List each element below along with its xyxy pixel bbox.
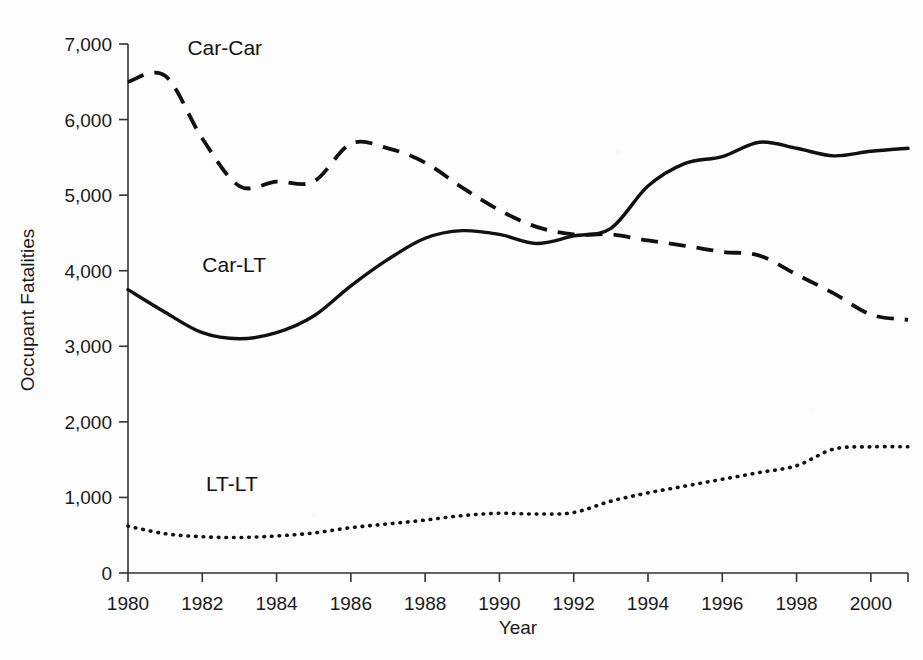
series-line-car-lt (128, 142, 908, 339)
y-tick-label: 1,000 (64, 487, 112, 508)
y-tick-label: 3,000 (64, 336, 112, 357)
x-tick-label: 1986 (330, 593, 372, 614)
chart-svg: 01,0002,0003,0004,0005,0006,0007,000 198… (0, 0, 923, 660)
x-tick-label: 1996 (701, 593, 743, 614)
series-label-car-lt: Car-LT (202, 253, 266, 276)
series-inline-labels: Car-CarCar-LTLT-LT (187, 36, 266, 494)
y-tick-label: 0 (101, 563, 112, 584)
x-tick-label: 1984 (255, 593, 298, 614)
series-line-car-car (128, 73, 908, 320)
x-axis-ticks: 1980198219841986198819901992199419961998… (107, 573, 908, 614)
x-axis-title: Year (499, 617, 538, 638)
data-series-group (128, 73, 908, 538)
y-axis-ticks: 01,0002,0003,0004,0005,0006,0007,000 (64, 34, 128, 584)
x-tick-label: 1988 (404, 593, 446, 614)
y-tick-label: 5,000 (64, 185, 112, 206)
x-tick-label: 1994 (627, 593, 670, 614)
occupant-fatalities-chart: 01,0002,0003,0004,0005,0006,0007,000 198… (0, 0, 923, 660)
y-axis-title: Occupant Fatalities (17, 229, 38, 392)
series-label-car-car: Car-Car (187, 36, 262, 59)
x-tick-label: 2000 (850, 593, 892, 614)
series-label-lt-lt: LT-LT (206, 472, 258, 495)
x-tick-label: 1990 (478, 593, 520, 614)
y-tick-label: 4,000 (64, 261, 112, 282)
x-tick-label: 1982 (181, 593, 223, 614)
x-tick-label: 1992 (553, 593, 595, 614)
x-tick-label: 1980 (107, 593, 149, 614)
y-tick-label: 6,000 (64, 110, 112, 131)
y-tick-label: 7,000 (64, 34, 112, 55)
x-tick-label: 1998 (775, 593, 817, 614)
y-tick-label: 2,000 (64, 412, 112, 433)
